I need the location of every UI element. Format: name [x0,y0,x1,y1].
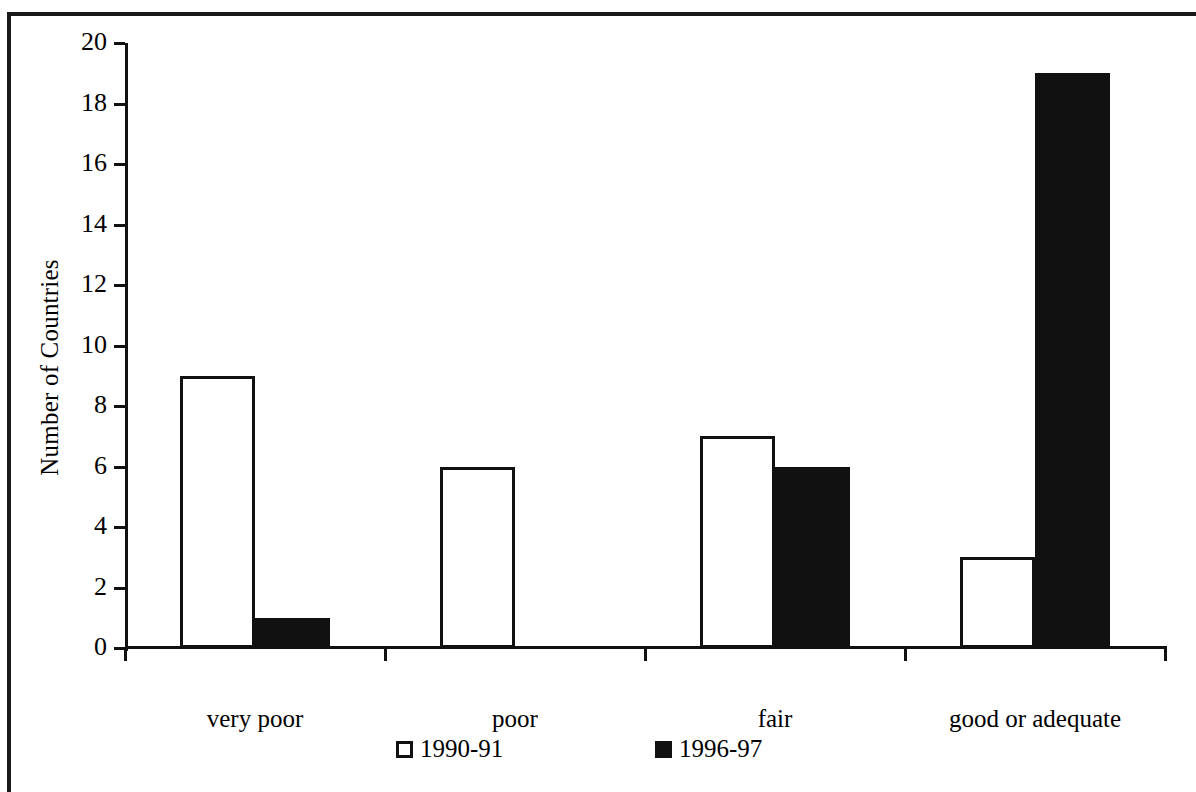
y-axis-tick-label: 0 [47,634,107,660]
chart-legend: 1990-911996-97 [0,736,1196,776]
y-axis-tick [114,103,125,106]
bar-good-or-adequate-1996-97 [1035,73,1110,648]
legend-item-label: 1996-97 [679,736,762,761]
y-axis-tick-label: 20 [47,29,107,55]
y-axis-tick-label: 8 [47,392,107,418]
y-axis-tick-label: 6 [47,453,107,479]
y-axis-tick-label: 12 [47,271,107,297]
filled-square-icon [655,741,672,758]
plot-area: 02468101214161820very poorpoorfairgood o… [125,43,1165,648]
bar-fair-1990-91 [700,436,775,648]
x-axis-tick [1164,648,1167,661]
y-axis-tick-label: 14 [47,211,107,237]
open-square-icon [396,741,413,758]
x-axis-tick [644,648,647,661]
y-axis-tick [114,284,125,287]
y-axis-tick [114,526,125,529]
x-axis-tick [124,648,127,661]
y-axis-tick-label: 18 [47,90,107,116]
y-axis-tick-label: 16 [47,150,107,176]
y-axis-tick [114,587,125,590]
x-axis-category-label: fair [645,706,905,731]
bar-very-poor-1990-91 [180,376,255,648]
bar-very-poor-1996-97 [255,618,330,648]
y-axis-tick [114,163,125,166]
bar-chart: Number of Countries 02468101214161820ver… [0,0,1196,792]
y-axis-tick [114,405,125,408]
x-axis-category-label: poor [385,706,645,731]
y-axis-tick-label: 4 [47,513,107,539]
legend-item-label: 1990-91 [420,736,503,761]
y-axis-tick [114,42,125,45]
bar-fair-1996-97 [775,467,850,649]
x-axis-tick [384,648,387,661]
bar-good-or-adequate-1990-91 [960,557,1035,648]
x-axis-category-label: very poor [125,706,385,731]
x-axis-tick [904,648,907,661]
y-axis-tick-label: 2 [47,574,107,600]
y-axis-tick [114,224,125,227]
y-axis-tick-label: 10 [47,332,107,358]
y-axis-tick [114,466,125,469]
x-axis-category-label: good or adequate [905,706,1165,731]
bar-poor-1990-91 [440,467,515,649]
legend-item-1996-97: 1996-97 [655,736,762,761]
legend-item-1990-91: 1990-91 [396,736,503,761]
y-axis-tick [114,345,125,348]
